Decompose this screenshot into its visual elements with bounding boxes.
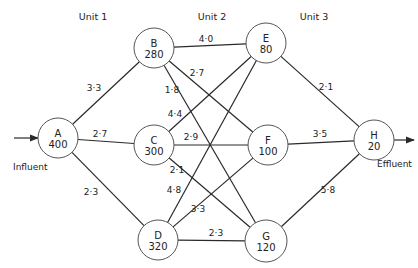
node-value: 300 [144,146,163,157]
node-id: H [370,130,378,141]
node-value: 280 [144,49,163,60]
node-g: G120 [245,220,287,262]
edge-labels: 3·32·72·34·02·71·84·42·92·14·83·32·32·13… [84,34,336,238]
edge-weight-label: 2·9 [184,132,199,142]
node-id: C [151,135,158,146]
node-d: D320 [138,220,178,260]
node-value: 20 [368,141,381,152]
edge-weight-label: 2·7 [93,129,107,139]
unit-labels: Unit 1Unit 2Unit 3 [79,11,328,22]
node-id: G [262,231,270,242]
edge-d-e [168,61,257,223]
edge-weight-label: 1·8 [165,85,180,95]
edge-weight-label: 2·7 [190,68,204,78]
unit-label: Unit 2 [198,11,226,22]
edge-d-g [178,240,245,241]
edge-weight-label: 5·8 [321,185,336,195]
influent-label: Influent [13,162,48,172]
edge-b-e [174,44,246,47]
node-value: 80 [260,44,273,55]
network-svg: Unit 1Unit 2Unit 3 Influent Effluent 3·3… [0,0,418,268]
node-b: B280 [134,28,174,68]
edge-weight-label: 2·3 [84,187,98,197]
node-value: 320 [148,241,167,252]
node-id: E [263,33,269,44]
edge-weight-label: 2·3 [209,228,223,238]
node-f: F100 [248,125,288,165]
node-a: A400 [38,118,78,158]
edge-a-c [78,140,134,144]
node-id: A [55,128,62,139]
node-e: E80 [246,23,286,63]
node-h: H20 [354,120,394,160]
node-value: 400 [48,139,67,150]
node-id: D [154,230,162,241]
edge-a-b [73,62,140,125]
edge-weight-label: 3·3 [87,83,101,93]
edge-a-d [72,152,144,225]
edge-weight-label: 4·8 [167,185,182,195]
node-id: F [265,135,271,146]
edge-f-h [288,141,354,144]
edge-weight-label: 4·4 [168,109,183,119]
edge-weight-label: 3·3 [191,204,205,214]
edge-weight-label: 2·1 [319,82,333,92]
node-c: C300 [134,125,174,165]
edges [72,44,359,241]
edge-weight-label: 4·0 [199,34,214,44]
unit-label: Unit 3 [300,11,328,22]
node-value: 100 [258,146,277,157]
node-id: B [151,38,158,49]
nodes: A400B280C300D320E80F100G120H20 [38,23,394,262]
edge-weight-label: 3·5 [313,129,327,139]
edge-weight-label: 2·1 [170,165,184,175]
effluent-label: Effluent [377,159,412,169]
unit-label: Unit 1 [79,11,107,22]
edge-d-f [173,158,253,227]
node-value: 120 [256,242,275,253]
treatment-network-diagram: Unit 1Unit 2Unit 3 Influent Effluent 3·3… [0,0,418,268]
